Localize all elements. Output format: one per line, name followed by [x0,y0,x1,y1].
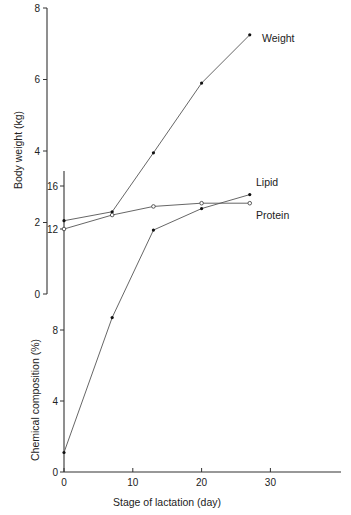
series: WeightLipidProtein [62,32,294,454]
x-tick-label: 30 [265,477,277,488]
series-line-protein [64,203,250,229]
data-point-weight [248,33,251,36]
y-tick-label-composition: 12 [47,224,59,235]
x-tick-label: 0 [61,477,67,488]
data-point-protein [152,205,156,209]
y-tick-label-composition: 0 [52,467,58,478]
data-point-protein [200,201,204,205]
data-point-lipid [111,316,114,319]
data-point-protein [110,213,114,217]
y-tick-label-weight: 8 [34,3,40,14]
data-point-lipid [200,207,203,210]
x-tick-label: 20 [196,477,208,488]
series-line-lipid [64,195,250,453]
data-point-lipid [248,193,251,196]
data-point-protein [62,227,66,231]
series-label-lipid: Lipid [256,176,278,188]
y-tick-label-composition: 4 [52,396,58,407]
series-line-weight [64,35,250,221]
x-axis-title: Stage of lactation (day) [113,496,221,508]
y-tick-label-weight: 6 [34,74,40,85]
y-axis-title-composition: Chemical composition (%) [29,339,41,461]
y-tick-label-weight: 0 [34,289,40,300]
axes: 0246804812160102030 [34,3,341,489]
x-tick-label: 10 [127,477,139,488]
y-tick-label-weight: 2 [34,217,40,228]
y-tick-label-composition: 8 [52,325,58,336]
data-point-weight [62,219,65,222]
data-point-lipid [152,228,155,231]
data-point-protein [248,201,252,205]
data-point-weight [200,81,203,84]
series-label-weight: Weight [262,32,295,44]
data-point-weight [152,151,155,154]
lactation-chart: 0246804812160102030 WeightLipidProtein S… [0,0,351,515]
y-tick-label-weight: 4 [34,146,40,157]
series-label-protein: Protein [256,209,289,221]
y-tick-label-composition: 16 [47,181,59,192]
data-point-lipid [62,451,65,454]
y-axis-title-weight: Body weight (kg) [12,111,24,189]
